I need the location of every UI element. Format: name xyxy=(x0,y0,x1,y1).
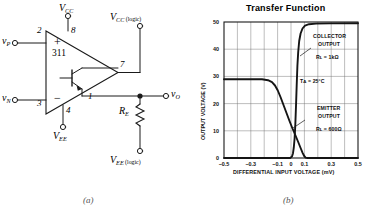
vcc-supply-label: VCC xyxy=(59,3,73,14)
vn-input-label: vN xyxy=(2,93,11,104)
emitter-annotation-line2: OUTPUT xyxy=(318,114,340,119)
re-resistor-zigzag xyxy=(136,104,144,126)
collector-load-annotation: Rʟ = 1kΩ xyxy=(316,55,339,60)
vee-terminal-node xyxy=(60,124,65,129)
emitter-resistor-label: RE xyxy=(119,106,129,117)
collector-annotation-line2: OUTPUT xyxy=(318,42,340,47)
vee-logic-supply-label: VEE (logic) xyxy=(110,155,141,166)
chart-title: Transfer Function xyxy=(246,4,325,13)
noninverting-plus-sign: + xyxy=(54,36,61,48)
pin-1-label: 1 xyxy=(88,92,93,101)
transistor-collector-lead xyxy=(72,68,82,74)
vo-terminal-node xyxy=(163,93,168,98)
emitter-annotation-line1: EMITTER xyxy=(317,106,340,111)
vcc-terminal-node xyxy=(65,13,70,18)
inverting-minus-sign: − xyxy=(54,92,61,104)
temperature-annotation: Tᴀ = 25°C xyxy=(300,79,325,84)
vo-output-label: vO xyxy=(171,89,180,100)
device-type-label: 311 xyxy=(52,49,66,59)
pin-3-label: 3 xyxy=(37,99,42,108)
vn-terminal-node xyxy=(12,97,17,102)
panel-a-caption: (a) xyxy=(83,196,94,205)
panel-b-caption: (b) xyxy=(283,196,294,205)
vee-logic-terminal-node xyxy=(137,148,142,153)
emitter-load-annotation: Rʟ = 600Ω xyxy=(316,127,342,132)
vp-input-label: vP xyxy=(2,36,10,47)
vp-terminal-node xyxy=(12,40,17,45)
pin-4-label: 4 xyxy=(66,106,71,115)
pin-8-label: 8 xyxy=(71,26,76,35)
chart-x-axis-title: DIFFERENTIAL INPUT VOLTAGE (mV) xyxy=(233,170,334,175)
pin-2-label: 2 xyxy=(37,26,42,35)
vee-supply-label: VEE xyxy=(53,131,67,142)
vcc-logic-terminal-node xyxy=(137,23,142,28)
comparator-circuit-diagram xyxy=(0,0,190,200)
vcc-logic-supply-label: VCC (logic) xyxy=(110,12,141,23)
pin-7-label: 7 xyxy=(120,60,125,69)
transistor-emitter-lead xyxy=(72,82,82,89)
figure-container: vP vN vO 2 3 8 4 7 1 + − 311 VCC VCC (lo… xyxy=(0,0,369,221)
collector-annotation-line1: COLLECTOR xyxy=(313,34,346,39)
